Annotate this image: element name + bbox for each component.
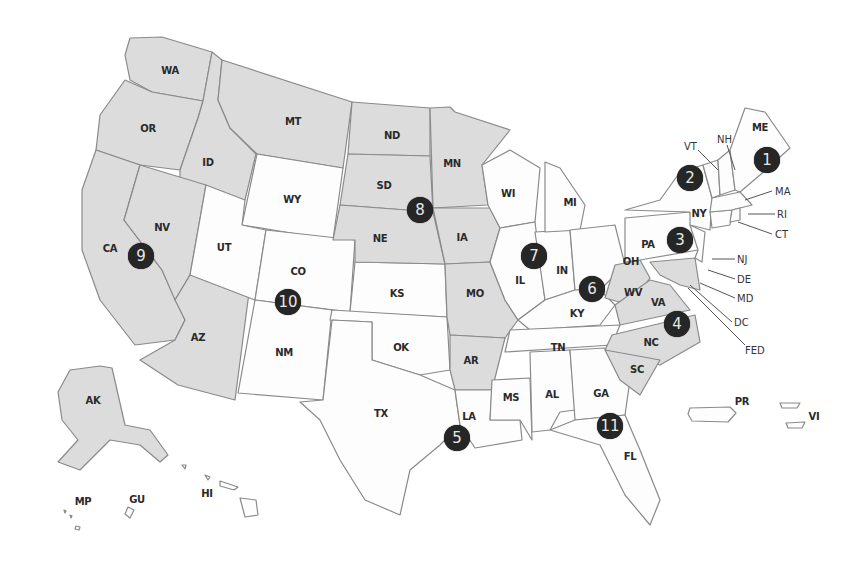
- callout-label-ma: MA: [775, 186, 790, 197]
- state-label-ut: UT: [217, 242, 231, 253]
- state-label-gu: GU: [129, 494, 145, 505]
- callout-label-de: DE: [737, 274, 751, 285]
- state-label-wv: WV: [624, 287, 642, 298]
- state-label-az: AZ: [191, 332, 205, 343]
- circuit-marker-5: 5: [444, 425, 470, 451]
- territory-mp: [64, 510, 80, 530]
- state-ct: [710, 210, 732, 228]
- state-label-oh: OH: [623, 256, 639, 267]
- callout-label-nj: NJ: [737, 254, 747, 265]
- state-label-tx: TX: [374, 408, 388, 419]
- circuit-marker-7: 7: [521, 243, 547, 269]
- state-label-ca: CA: [103, 243, 117, 254]
- state-label-ks: KS: [390, 288, 404, 299]
- state-label-ar: AR: [464, 355, 479, 366]
- circuit-marker-4: 4: [664, 311, 690, 337]
- state-label-wy: WY: [283, 194, 301, 205]
- territory-vi: [780, 403, 805, 428]
- state-ri: [730, 208, 740, 222]
- state-label-la: LA: [462, 411, 476, 422]
- state-label-wi: WI: [501, 188, 515, 199]
- state-hi: [182, 465, 258, 517]
- state-label-ky: KY: [570, 308, 584, 319]
- state-label-sc: SC: [630, 364, 644, 375]
- state-label-va: VA: [651, 297, 665, 308]
- state-label-nm: NM: [275, 347, 293, 358]
- state-label-ne: NE: [373, 233, 388, 244]
- state-label-ny: NY: [691, 208, 706, 219]
- state-label-wa: WA: [161, 65, 179, 76]
- circuit-marker-1: 1: [754, 147, 780, 173]
- state-label-mp: MP: [75, 496, 92, 507]
- state-label-sd: SD: [377, 180, 392, 191]
- state-label-mo: MO: [466, 288, 484, 299]
- state-label-nv: NV: [154, 222, 170, 233]
- callout-label-fed: FED: [745, 345, 765, 356]
- circuit-marker-10: 10: [275, 289, 301, 315]
- state-label-in: IN: [556, 265, 568, 276]
- state-label-nc: NC: [643, 337, 658, 348]
- state-label-hi: HI: [201, 488, 213, 499]
- state-label-ia: IA: [457, 232, 468, 243]
- callout-label-ct: CT: [775, 229, 788, 240]
- state-label-ok: OK: [393, 342, 409, 353]
- circuit-marker-6: 6: [579, 276, 605, 302]
- state-label-fl: FL: [624, 451, 637, 462]
- callout-label-ri: RI: [777, 209, 787, 220]
- state-label-ms: MS: [503, 392, 520, 403]
- state-label-or: OR: [140, 123, 156, 134]
- state-label-id: ID: [202, 157, 213, 168]
- circuit-marker-3: 3: [667, 227, 693, 253]
- territory-pr: [688, 407, 736, 422]
- us-map: [0, 0, 861, 564]
- state-ak: [58, 366, 168, 470]
- state-label-me: ME: [752, 122, 768, 133]
- state-label-ga: GA: [593, 388, 608, 399]
- circuit-marker-11: 11: [597, 413, 623, 439]
- callout-label-nh: NH: [717, 134, 732, 145]
- state-label-al: AL: [545, 389, 559, 400]
- state-label-ak: AK: [86, 395, 101, 406]
- state-label-mt: MT: [285, 116, 301, 127]
- state-label-co: CO: [290, 266, 305, 277]
- state-label-il: IL: [515, 275, 525, 286]
- circuit-marker-9: 9: [128, 243, 154, 269]
- state-label-nd: ND: [384, 130, 400, 141]
- state-label-pr: PR: [735, 396, 749, 407]
- circuit-marker-8: 8: [407, 197, 433, 223]
- state-label-tn: TN: [551, 342, 566, 353]
- state-label-mi: MI: [563, 197, 576, 208]
- state-label-mn: MN: [443, 158, 461, 169]
- circuit-marker-2: 2: [677, 165, 703, 191]
- state-label-vi: VI: [809, 411, 820, 422]
- state-label-pa: PA: [641, 239, 655, 250]
- callout-label-vt: VT: [684, 141, 697, 152]
- callout-label-md: MD: [737, 293, 753, 304]
- territory-gu: [125, 507, 134, 518]
- callout-label-dc: DC: [734, 317, 749, 328]
